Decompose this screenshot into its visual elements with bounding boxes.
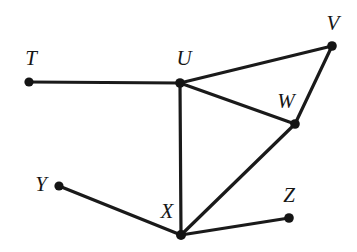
graph-edge-v-w xyxy=(295,46,332,124)
graph-node-y[interactable] xyxy=(54,181,63,190)
graph-node-label-y: Y xyxy=(35,174,47,195)
graph-canvas xyxy=(0,0,357,252)
graph-node-w[interactable] xyxy=(290,119,300,129)
graph-node-u[interactable] xyxy=(175,78,185,88)
graph-node-label-w: W xyxy=(277,91,295,112)
graph-node-v[interactable] xyxy=(327,41,337,51)
graph-node-x[interactable] xyxy=(176,230,186,240)
graph-node-z[interactable] xyxy=(284,213,294,223)
graph-node-t[interactable] xyxy=(24,77,33,86)
graph-node-label-z: Z xyxy=(283,185,295,206)
graph-edge-t-u xyxy=(29,82,180,83)
graph-edge-u-v xyxy=(180,46,332,83)
graph-node-label-t: T xyxy=(25,48,37,69)
graph-node-label-v: V xyxy=(327,13,340,34)
graph-node-label-x: X xyxy=(161,201,174,222)
graph-diagram: TUVWXYZ xyxy=(0,0,357,252)
graph-node-label-u: U xyxy=(176,48,191,69)
graph-edges-layer xyxy=(29,46,332,235)
graph-edge-u-x xyxy=(180,83,181,235)
